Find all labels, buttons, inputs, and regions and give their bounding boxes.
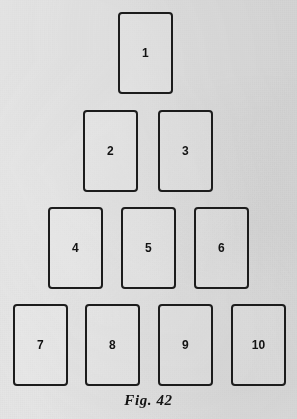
card-number-label: 4 (72, 242, 79, 254)
card-number-label: 7 (37, 339, 44, 351)
card-number-label: 8 (109, 339, 116, 351)
card-3: 3 (158, 110, 213, 192)
card-number-label: 5 (145, 242, 152, 254)
card-6: 6 (194, 207, 249, 289)
card-number-label: 10 (252, 339, 266, 351)
card-number-label: 6 (218, 242, 225, 254)
figure-caption: Fig. 42 (0, 392, 297, 409)
card-4: 4 (48, 207, 103, 289)
card-number-label: 2 (107, 145, 114, 157)
card-number-label: 3 (182, 145, 189, 157)
card-2: 2 (83, 110, 138, 192)
card-8: 8 (85, 304, 140, 386)
card-number-label: 1 (142, 47, 149, 59)
figure-page: 1 2 3 4 5 6 7 8 9 10 Fig. 42 (0, 0, 297, 419)
card-5: 5 (121, 207, 176, 289)
card-7: 7 (13, 304, 68, 386)
card-9: 9 (158, 304, 213, 386)
card-1: 1 (118, 12, 173, 94)
card-10: 10 (231, 304, 286, 386)
card-number-label: 9 (182, 339, 189, 351)
